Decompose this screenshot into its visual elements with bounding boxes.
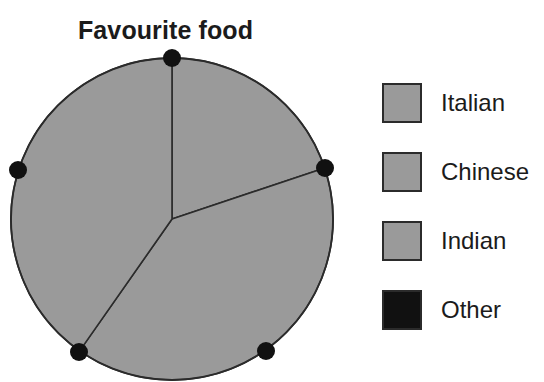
pie-plot-area (0, 40, 350, 382)
legend-item-italian[interactable]: Italian (382, 82, 542, 124)
legend-label-other: Other (441, 298, 501, 322)
legend-swatch-other (382, 290, 422, 330)
marker-top (163, 49, 181, 67)
legend-item-other[interactable]: Other (382, 289, 542, 331)
legend-item-chinese[interactable]: Chinese (382, 151, 542, 193)
pie-svg (0, 40, 350, 382)
marker-left (9, 161, 27, 179)
marker-right (316, 159, 334, 177)
legend-item-indian[interactable]: Indian (382, 220, 542, 262)
pie-chart-figure: Favourite food Italian Chinese Indian Ot… (0, 0, 544, 382)
legend-label-chinese: Chinese (441, 160, 529, 184)
legend-swatch-chinese (382, 152, 422, 192)
legend-swatch-indian (382, 221, 422, 261)
legend-label-indian: Indian (441, 229, 506, 253)
pie-sectors (11, 58, 333, 380)
marker-bottom-left (70, 343, 88, 361)
legend-label-italian: Italian (441, 91, 505, 115)
chart-legend: Italian Chinese Indian Other (382, 82, 542, 331)
marker-bottom-right (257, 342, 275, 360)
legend-swatch-italian (382, 83, 422, 123)
